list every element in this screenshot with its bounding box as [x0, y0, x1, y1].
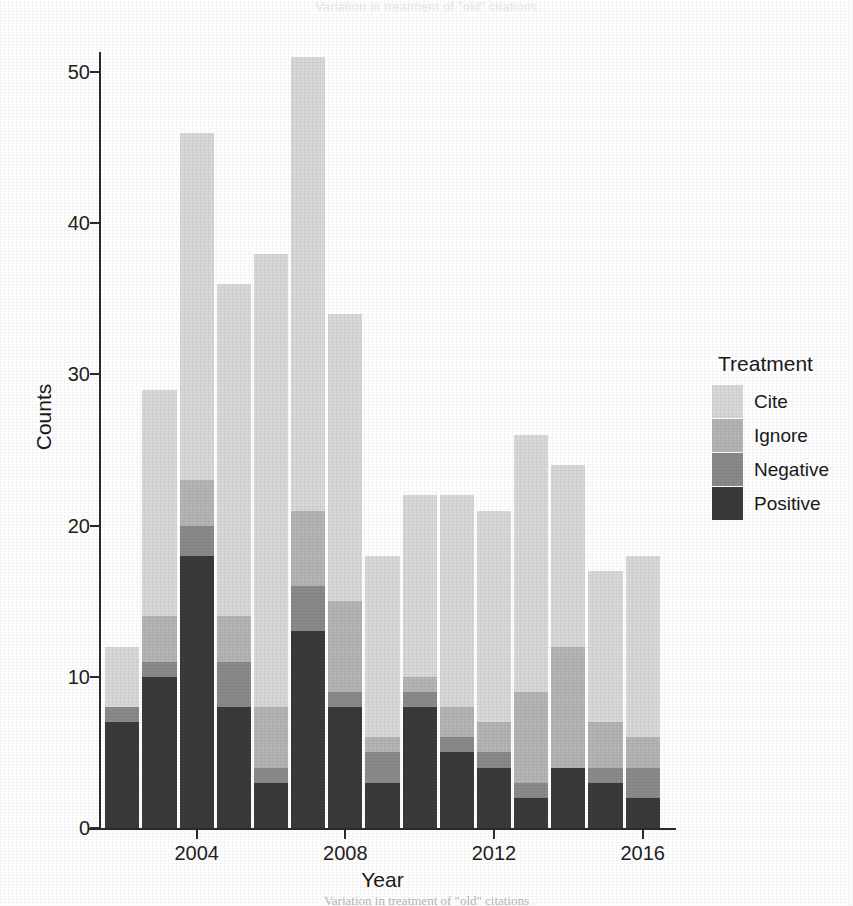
y-tick-label-wrap: 10	[44, 667, 90, 687]
y-tick-mark	[90, 525, 99, 527]
bar-segment-ignore	[217, 616, 251, 661]
bar-segment-positive	[588, 783, 622, 828]
bar-segment-positive	[551, 768, 585, 828]
bar-segment-ignore	[291, 511, 325, 587]
bar-segment-ignore	[514, 692, 548, 783]
x-axis-title: Year	[100, 868, 665, 892]
bar-segment-negative	[403, 692, 437, 707]
bar-segment-cite	[477, 511, 511, 723]
bar-segment-positive	[440, 752, 474, 828]
y-tick-label: 40	[54, 213, 90, 233]
bar-segment-ignore	[551, 647, 585, 768]
y-tick-label-wrap: 20	[44, 516, 90, 536]
bar-segment-positive	[365, 783, 399, 828]
bar-segment-negative	[180, 526, 214, 556]
bar-2007	[291, 57, 325, 828]
bar-segment-ignore	[440, 707, 474, 737]
y-tick-label-wrap: 30	[44, 364, 90, 384]
y-tick-mark	[90, 71, 99, 73]
y-tick-label: 20	[54, 516, 90, 536]
x-tick-mark	[196, 830, 198, 839]
legend-title: Treatment	[718, 352, 853, 376]
bar-2014	[551, 57, 585, 828]
legend-swatch-icon	[712, 385, 743, 418]
bar-segment-negative	[105, 707, 139, 722]
bar-segment-negative	[477, 752, 511, 767]
bar-2005	[217, 57, 251, 828]
y-tick-label: 10	[54, 667, 90, 687]
legend-swatch-icon	[712, 419, 743, 452]
bar-2011	[440, 57, 474, 828]
bar-segment-negative	[514, 783, 548, 798]
bar-segment-cite	[142, 390, 176, 617]
stacked-bar-chart: Counts Year 01020304050 2004200820122016…	[0, 0, 853, 906]
bar-segment-negative	[588, 768, 622, 783]
figure-caption: Variation in treatment of "old" citation…	[0, 893, 853, 906]
bar-segment-ignore	[328, 601, 362, 692]
bar-2002	[105, 57, 139, 828]
bar-segment-positive	[142, 677, 176, 828]
legend-swatch-icon	[712, 453, 743, 486]
legend-swatch-icon	[712, 487, 743, 520]
bar-segment-ignore	[142, 616, 176, 661]
bar-segment-ignore	[403, 677, 437, 692]
bar-segment-negative	[626, 768, 660, 798]
bar-2008	[328, 57, 362, 828]
bar-2013	[514, 57, 548, 828]
bar-segment-cite	[588, 571, 622, 722]
bar-segment-ignore	[626, 737, 660, 767]
plot-area	[100, 57, 665, 828]
legend-entry-ignore[interactable]: Ignore	[712, 418, 853, 452]
x-tick-mark	[493, 830, 495, 839]
x-tick-label: 2008	[305, 842, 385, 864]
bar-segment-cite	[626, 556, 660, 737]
y-tick-label: 50	[54, 62, 90, 82]
y-tick-label: 0	[54, 818, 90, 838]
legend-entry-negative[interactable]: Negative	[712, 452, 853, 486]
bar-segment-cite	[365, 556, 399, 737]
bar-segment-ignore	[477, 722, 511, 752]
bar-segment-cite	[551, 465, 585, 646]
bar-segment-cite	[291, 57, 325, 511]
bar-2004	[180, 57, 214, 828]
bar-segment-positive	[291, 631, 325, 828]
bar-segment-cite	[254, 254, 288, 708]
bar-segment-positive	[403, 707, 437, 828]
bar-segment-positive	[105, 722, 139, 828]
bar-segment-cite	[217, 284, 251, 617]
bar-segment-ignore	[588, 722, 622, 767]
bar-2010	[403, 57, 437, 828]
bar-segment-negative	[440, 737, 474, 752]
bar-segment-positive	[626, 798, 660, 828]
bar-segment-positive	[514, 798, 548, 828]
legend-entries: CiteIgnoreNegativePositive	[712, 384, 853, 520]
legend-label: Cite	[754, 391, 788, 412]
bar-segment-cite	[514, 435, 548, 692]
legend-entry-positive[interactable]: Positive	[712, 486, 853, 520]
bar-segment-negative	[217, 662, 251, 707]
y-tick-mark	[90, 827, 99, 829]
x-tick-label: 2012	[454, 842, 534, 864]
bar-2009	[365, 57, 399, 828]
bar-2006	[254, 57, 288, 828]
y-tick-mark	[90, 373, 99, 375]
bar-segment-cite	[403, 495, 437, 676]
bar-2012	[477, 57, 511, 828]
bar-segment-positive	[180, 556, 214, 828]
bar-segment-positive	[477, 768, 511, 828]
x-axis-line	[88, 828, 676, 830]
bar-segment-cite	[440, 495, 474, 707]
legend-entry-cite[interactable]: Cite	[712, 384, 853, 418]
bar-segment-positive	[328, 707, 362, 828]
legend-label: Ignore	[754, 425, 808, 446]
bar-segment-negative	[254, 768, 288, 783]
bar-2016	[626, 57, 660, 828]
bar-segment-negative	[328, 692, 362, 707]
bar-2015	[588, 57, 622, 828]
bar-segment-negative	[142, 662, 176, 677]
x-tick-label: 2016	[603, 842, 683, 864]
bar-segment-cite	[180, 133, 214, 481]
y-tick-mark	[90, 676, 99, 678]
x-tick-label: 2004	[157, 842, 237, 864]
legend-label: Positive	[754, 493, 821, 514]
